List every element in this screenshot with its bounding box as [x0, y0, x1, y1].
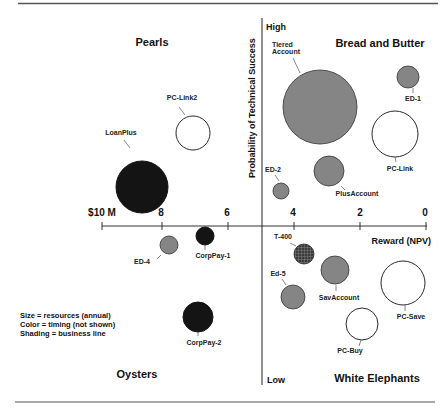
bubble-t-400[interactable]: T-400 — [274, 233, 314, 264]
x-tick-0: 0 — [422, 207, 428, 218]
x-tick-8: 8 — [158, 207, 164, 218]
legend-shading: Shading = business line — [20, 329, 106, 338]
bubble-label-pc-save: PC-Save — [397, 313, 426, 320]
bubble-plusaccount[interactable]: PlusAccount — [314, 156, 379, 197]
bubble-label-tiered-1: Tiered — [272, 41, 293, 48]
bubble-ed-4[interactable]: ED-4 — [134, 236, 178, 265]
bubble-savaccount[interactable]: SavAccount — [319, 256, 360, 301]
y-axis-title: Probability of Technical Success — [247, 38, 257, 178]
bubble-label-ed-2: ED-2 — [265, 166, 281, 173]
x-tick-10: $10 M — [88, 207, 116, 218]
bubble-label-pc-buy: PC-Buy — [337, 347, 362, 355]
bubble-corppay-2[interactable]: CorpPay-2 — [183, 302, 222, 347]
bubble-label-corppay-2: CorpPay-2 — [186, 339, 221, 347]
bubble-corppay-1[interactable]: CorpPay-1 — [195, 227, 230, 260]
bubble-pc-link[interactable]: PC-Link — [372, 111, 418, 172]
bubble-label-tiered-2: Account — [272, 48, 301, 55]
bubble-label-ed-4: ED-4 — [134, 258, 150, 265]
bubble-label-t-400: T-400 — [274, 233, 292, 240]
bubble-loanplus[interactable]: LoanPlus — [105, 129, 168, 213]
bubble-label-corppay-1: CorpPay-1 — [195, 252, 230, 260]
bubble-ed-1[interactable]: ED-1 — [397, 66, 421, 102]
bubble-pc-buy[interactable]: PC-Buy — [337, 308, 378, 355]
y-axis-high-label: High — [266, 22, 286, 32]
bubble-pc-save[interactable]: PC-Save — [381, 261, 425, 320]
bubble-label-pc-link: PC-Link — [387, 165, 414, 172]
x-tick-6: 6 — [224, 207, 230, 218]
bubble-label-ed-1: ED-1 — [405, 95, 421, 102]
bubble-label-savaccount: SavAccount — [319, 294, 360, 301]
legend-notes: Size = resources (annual) Color = timing… — [20, 311, 116, 338]
x-tick-4: 4 — [290, 207, 296, 218]
quadrant-oysters: Oysters — [117, 368, 158, 380]
bubble-ed-5[interactable]: Ed-5 — [270, 270, 305, 309]
quadrant-pearls: Pearls — [135, 36, 168, 48]
bubble-ed-2[interactable]: ED-2 — [265, 166, 289, 199]
bubble-pc-link2[interactable]: PC-Link2 — [167, 94, 210, 150]
legend-color: Color = timing (not shown) — [20, 320, 116, 329]
bubble-label-ed-5: Ed-5 — [270, 270, 285, 277]
x-axis-title: Reward (NPV) — [371, 236, 431, 246]
bubble-label-loanplus: LoanPlus — [105, 129, 137, 136]
legend-size: Size = resources (annual) — [20, 311, 111, 320]
y-axis-low-label: Low — [267, 375, 286, 385]
portfolio-bubble-chart: $10 M 8 6 4 2 0 Reward (NPV) Probability… — [0, 0, 448, 408]
bubble-label-plusaccount: PlusAccount — [336, 190, 379, 197]
bubble-tiered-account[interactable]: Tiered Account — [272, 41, 357, 144]
bubble-label-pc-link2: PC-Link2 — [167, 94, 197, 101]
quadrant-bread-and-butter: Bread and Butter — [335, 37, 425, 49]
x-tick-2: 2 — [357, 207, 363, 218]
quadrant-white-elephants: White Elephants — [334, 372, 420, 384]
